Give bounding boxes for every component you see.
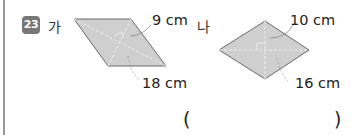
figure-a-short-diagonal: 9 cm bbox=[152, 12, 188, 28]
figure-b-short-diagonal: 10 cm bbox=[290, 12, 335, 28]
answer-open-paren: ( bbox=[183, 108, 190, 130]
figure-b-long-diagonal: 16 cm bbox=[295, 75, 340, 91]
figure-a-long-diagonal: 18 cm bbox=[142, 75, 187, 91]
figure-b-label: 나 bbox=[197, 16, 210, 36]
figure-a-rhombus bbox=[74, 19, 166, 80]
figure-b-rhombus bbox=[219, 21, 309, 82]
answer-blank[interactable] bbox=[195, 110, 330, 130]
answer-close-paren: ) bbox=[334, 108, 341, 130]
